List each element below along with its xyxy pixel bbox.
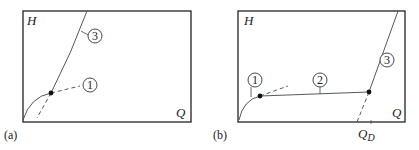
panel-a-callout-1-label: 1 <box>87 78 93 92</box>
panel-b-point-1 <box>258 94 263 99</box>
diagram-canvas: H Q (a) 3 1 H Q (b) <box>0 0 419 150</box>
panel-a: H Q (a) 3 1 <box>4 11 191 142</box>
panel-a-curve-3 <box>51 11 87 93</box>
panel-b-curve-1-dashed <box>260 86 288 96</box>
panel-b-caption: (b) <box>213 128 227 142</box>
panel-a-curve-1 <box>23 93 51 120</box>
panel-b-callout-3-label: 3 <box>384 53 390 67</box>
panel-b-callout-1-label: 1 <box>252 73 258 87</box>
panel-b-point-2 <box>367 90 372 95</box>
panel-b-curve-3-dashed <box>357 92 369 122</box>
panel-a-curve-1-dashed <box>51 86 80 93</box>
panel-a-callout-3-label: 3 <box>92 29 98 43</box>
panel-b-callout-2-label: 2 <box>317 73 323 87</box>
panel-b-frame <box>238 11 405 122</box>
panel-b: H Q (b) 1 2 3 QD <box>213 11 405 143</box>
panel-b-y-axis-label: H <box>243 13 254 28</box>
panel-a-operating-point <box>49 91 54 96</box>
panel-a-y-axis-label: H <box>26 13 37 28</box>
panel-b-qd-label: QD <box>358 126 375 143</box>
panel-a-caption: (a) <box>4 128 17 142</box>
panel-b-x-axis-label: Q <box>392 105 402 120</box>
panel-a-callout-3-leader <box>81 31 88 35</box>
panel-a-x-axis-label: Q <box>176 105 186 120</box>
panel-b-curve-1 <box>239 96 260 120</box>
panel-b-curve-2 <box>260 92 369 96</box>
panel-a-curve-3-dashed <box>37 93 51 118</box>
panel-a-frame <box>23 11 191 122</box>
panel-b-curve-3 <box>369 11 398 92</box>
